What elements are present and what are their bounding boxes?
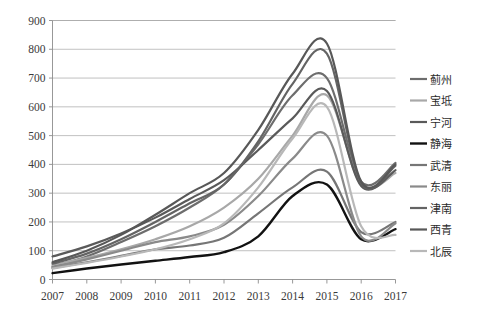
y-tick-label: 800 (28, 43, 46, 55)
legend-item-5[interactable]: 东丽 (410, 181, 452, 194)
legend-item-1[interactable]: 宝坻 (410, 94, 452, 108)
y-tick-label: 300 (28, 187, 46, 199)
y-tick-label: 0 (40, 274, 46, 286)
series-line-6 (53, 49, 396, 264)
x-tick-label: 2013 (247, 290, 270, 302)
legend-label: 蓟州 (430, 74, 452, 87)
legend-label: 西青 (430, 224, 452, 237)
x-axis-tickmarks (53, 280, 396, 284)
y-tick-label: 700 (28, 72, 46, 84)
legend-item-7[interactable]: 西青 (410, 224, 452, 237)
chart-legend: 蓟州宝坻宁河静海武清东丽津南西青北辰 (410, 74, 452, 259)
legend-label: 武清 (430, 160, 452, 173)
y-tick-label: 600 (28, 101, 46, 113)
x-tick-label: 2017 (384, 290, 407, 302)
legend-item-8[interactable]: 北辰 (410, 246, 452, 259)
legend-label: 东丽 (430, 181, 452, 194)
x-tick-label: 2014 (281, 290, 304, 302)
x-tick-label: 2007 (41, 290, 64, 302)
x-tick-label: 2011 (178, 290, 201, 302)
y-tick-label: 900 (28, 15, 46, 27)
y-axis-tick-labels: 0100200300400500600700800900 (28, 15, 52, 286)
x-tick-label: 2010 (144, 290, 167, 302)
x-tick-label: 2016 (350, 290, 373, 302)
legend-label: 静海 (430, 137, 452, 151)
legend-label: 宁河 (430, 116, 452, 130)
y-tick-label: 100 (28, 245, 46, 257)
legend-label: 宝坻 (430, 94, 452, 108)
line-chart-panel: 0100200300400500600700800900 20072008200… (0, 0, 485, 319)
y-tick-label: 400 (28, 158, 46, 170)
legend-label: 北辰 (430, 246, 452, 259)
x-axis-tick-labels: 2007200820092010201120122013201420152016… (41, 290, 407, 302)
y-tick-label: 200 (28, 216, 46, 228)
x-tick-label: 2015 (315, 290, 338, 302)
legend-item-6[interactable]: 津南 (410, 203, 452, 216)
y-tick-label: 500 (28, 130, 46, 142)
chart-series-lines (53, 38, 396, 273)
chart-canvas: 0100200300400500600700800900 20072008200… (0, 0, 485, 319)
x-tick-label: 2009 (110, 290, 133, 302)
x-tick-label: 2012 (213, 290, 236, 302)
x-tick-label: 2008 (75, 290, 98, 302)
legend-item-2[interactable]: 宁河 (410, 116, 452, 130)
series-line-7 (53, 38, 396, 262)
legend-item-3[interactable]: 静海 (410, 137, 452, 151)
legend-label: 津南 (430, 203, 452, 216)
legend-item-4[interactable]: 武清 (410, 160, 452, 173)
legend-item-0[interactable]: 蓟州 (410, 74, 452, 87)
